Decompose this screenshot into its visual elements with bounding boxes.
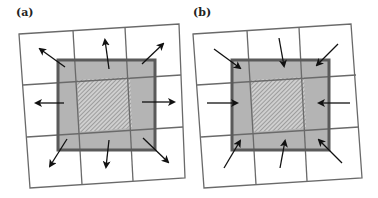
- panel-a: [19, 24, 185, 188]
- diagram-canvas: [0, 0, 378, 198]
- panel-b: [193, 24, 362, 188]
- hatched-region: [77, 77, 132, 132]
- hatched-region: [251, 77, 306, 132]
